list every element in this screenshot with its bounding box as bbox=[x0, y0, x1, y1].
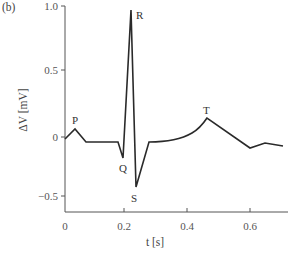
x-tick-label: 0 bbox=[62, 220, 68, 232]
x-tick-label: 0.2 bbox=[117, 220, 131, 232]
y-tick-label: 1.0 bbox=[44, 0, 58, 12]
y-tick-label: 0 bbox=[53, 131, 59, 143]
wave-label-p: P bbox=[72, 114, 78, 126]
x-tick-label: 0.6 bbox=[243, 220, 257, 232]
wave-label-s: S bbox=[131, 192, 137, 204]
panel-label: (b) bbox=[2, 1, 16, 14]
ecg-chart: 1.0 0.5 0 −0.5 0 0.2 0.4 0.6 t [s] ΔV [m… bbox=[0, 0, 291, 254]
y-tick-label: 0.5 bbox=[44, 64, 58, 76]
x-axis-label: t [s] bbox=[146, 236, 164, 248]
y-ticks bbox=[61, 6, 65, 196]
wave-label-t: T bbox=[203, 104, 210, 116]
y-tick-label: −0.5 bbox=[38, 190, 58, 202]
x-tick-label: 0.4 bbox=[180, 220, 194, 232]
ecg-waveform-line bbox=[65, 10, 283, 187]
wave-label-r: R bbox=[136, 9, 144, 21]
y-axis-label: ΔV [mV] bbox=[17, 88, 29, 131]
wave-label-q: Q bbox=[119, 162, 127, 174]
x-ticks bbox=[124, 208, 250, 212]
